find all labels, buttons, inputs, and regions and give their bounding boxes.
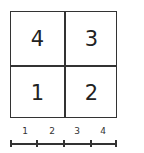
cell-top-right: 3 bbox=[65, 12, 118, 65]
cell-bottom-left: 1 bbox=[11, 66, 64, 119]
scale-tick bbox=[63, 140, 65, 147]
scale-bar bbox=[10, 143, 117, 145]
scale-label-2: 2 bbox=[39, 126, 65, 136]
cell-bottom-right: 2 bbox=[65, 66, 118, 119]
quadrant-grid: 4 3 1 2 bbox=[10, 11, 117, 118]
scale-label-4: 4 bbox=[90, 126, 116, 136]
scale-tick bbox=[90, 140, 92, 147]
scale-tick bbox=[36, 140, 38, 147]
scale-label-3: 3 bbox=[64, 126, 90, 136]
scale-label-1: 1 bbox=[12, 126, 38, 136]
scale-tick bbox=[10, 140, 12, 147]
scale-tick bbox=[115, 140, 117, 147]
cell-top-left: 4 bbox=[11, 12, 64, 65]
